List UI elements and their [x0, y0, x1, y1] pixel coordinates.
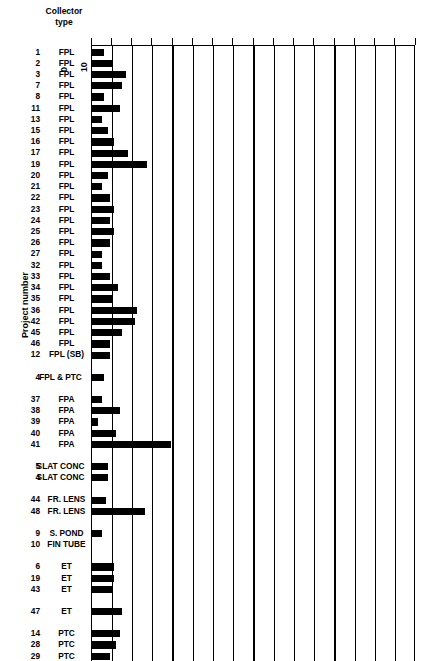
chart-row: 34FPL — [0, 282, 432, 293]
row-collector-type: FPL — [42, 327, 91, 338]
row-collector-type: SLAT CONC — [30, 472, 91, 483]
row-project-number: 9 — [14, 528, 40, 539]
bar — [92, 150, 128, 157]
horizontal-bar-chart: Collector type Project number 0102030405… — [0, 0, 432, 661]
bar — [92, 82, 122, 89]
bar — [92, 307, 137, 314]
row-collector-type: PTC — [42, 651, 91, 661]
row-collector-type: FPL — [42, 80, 91, 91]
row-collector-type: FPL — [42, 91, 91, 102]
bar — [92, 161, 147, 168]
bar — [92, 418, 98, 425]
row-project-number: 38 — [14, 405, 40, 416]
chart-row: 29PTC — [0, 651, 432, 661]
chart-row: 6ET — [0, 561, 432, 572]
row-project-number: 37 — [14, 394, 40, 405]
row-collector-type: FPA — [42, 405, 91, 416]
row-collector-type: ET — [42, 606, 91, 617]
bar — [92, 530, 102, 537]
row-collector-type: FPL — [42, 293, 91, 304]
chart-row: 38FPA — [0, 405, 432, 416]
row-project-number: 16 — [14, 136, 40, 147]
bar — [92, 71, 126, 78]
chart-row: 35FPL — [0, 293, 432, 304]
chart-row: 19ET — [0, 573, 432, 584]
bar — [92, 641, 116, 648]
row-collector-type: FPL — [42, 271, 91, 282]
row-collector-type: FPL — [42, 181, 91, 192]
chart-row: 14PTC — [0, 628, 432, 639]
row-project-number: 25 — [14, 226, 40, 237]
bar — [92, 295, 112, 302]
row-project-number: 29 — [14, 651, 40, 661]
row-project-number: 6 — [14, 561, 40, 572]
row-project-number: 43 — [14, 584, 40, 595]
bar — [92, 127, 108, 134]
row-collector-type: FPL — [42, 338, 91, 349]
row-collector-type: FPL — [42, 248, 91, 259]
bar — [92, 105, 120, 112]
row-project-number: 32 — [14, 260, 40, 271]
row-collector-type: FR. LENS — [42, 506, 91, 517]
row-collector-type: FPL — [42, 305, 91, 316]
row-collector-type: FPA — [42, 416, 91, 427]
bar — [92, 396, 102, 403]
row-collector-type: FPL — [42, 282, 91, 293]
row-project-number: 44 — [14, 494, 40, 505]
row-project-number: 46 — [14, 338, 40, 349]
bar — [92, 60, 112, 67]
bar — [92, 441, 171, 448]
row-collector-type: FPL — [42, 103, 91, 114]
row-project-number: 1 — [14, 47, 40, 58]
chart-row: 5SLAT CONC — [0, 461, 432, 472]
chart-row: 32FPL — [0, 260, 432, 271]
chart-row: 39FPA — [0, 416, 432, 427]
chart-row: 8FPL — [0, 91, 432, 102]
row-collector-type: FPL (SB) — [42, 349, 91, 360]
chart-row: 48FR. LENS — [0, 506, 432, 517]
chart-row: 13FPL — [0, 114, 432, 125]
row-collector-type: ET — [42, 584, 91, 595]
row-project-number: 48 — [14, 506, 40, 517]
row-collector-type: FPL — [42, 204, 91, 215]
row-project-number: 26 — [14, 237, 40, 248]
row-collector-type: FPL — [42, 69, 91, 80]
row-project-number: 40 — [14, 428, 40, 439]
row-collector-type: FPA — [42, 439, 91, 450]
bar — [92, 172, 108, 179]
row-collector-type: FPL — [42, 192, 91, 203]
row-collector-type: FPL — [42, 136, 91, 147]
chart-row: 22FPL — [0, 192, 432, 203]
row-collector-type: FPL — [42, 215, 91, 226]
row-project-number: 8 — [14, 91, 40, 102]
row-project-number: 19 — [14, 573, 40, 584]
bar — [92, 262, 102, 269]
row-project-number: 3 — [14, 69, 40, 80]
chart-row: 20FPL — [0, 170, 432, 181]
chart-row: 10FIN TUBE — [0, 539, 432, 550]
row-project-number: 11 — [14, 103, 40, 114]
chart-row: 17FPL — [0, 147, 432, 158]
row-collector-type: FPL — [42, 226, 91, 237]
row-project-number: 47 — [14, 606, 40, 617]
row-project-number: 19 — [14, 159, 40, 170]
bar — [92, 206, 114, 213]
row-collector-type: FPL — [42, 58, 91, 69]
row-project-number: 17 — [14, 147, 40, 158]
chart-row: 26FPL — [0, 237, 432, 248]
chart-rows: 1FPL2FPL3FPL7FPL8FPL11FPL13FPL15FPL16FPL… — [0, 0, 432, 661]
bar — [92, 653, 110, 660]
chart-row: 27FPL — [0, 248, 432, 259]
row-collector-type: FPL — [42, 237, 91, 248]
chart-row: 25FPL — [0, 226, 432, 237]
row-project-number: 39 — [14, 416, 40, 427]
bar — [92, 116, 102, 123]
chart-row: 4FPL & PTC — [0, 372, 432, 383]
row-project-number: 23 — [14, 204, 40, 215]
row-collector-type: ET — [42, 561, 91, 572]
bar — [92, 284, 118, 291]
bar — [92, 329, 122, 336]
chart-row: 2FPL — [0, 58, 432, 69]
row-project-number: 33 — [14, 271, 40, 282]
chart-row: 47ET — [0, 606, 432, 617]
